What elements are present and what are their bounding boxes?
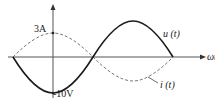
x-axis-label: ωt (207, 52, 215, 62)
x-axis-arrow-icon (200, 55, 206, 60)
waveform-diagram (0, 0, 215, 101)
y-axis-arrow-icon (51, 4, 56, 10)
current-peak-label: 3A (34, 24, 46, 34)
voltage-min-label: -10V (53, 89, 74, 99)
voltage-curve-label: u (t) (163, 29, 180, 39)
current-peak-marker (52, 32, 55, 35)
current-leader-line (148, 77, 158, 83)
current-curve-label: i (t) (160, 80, 175, 90)
